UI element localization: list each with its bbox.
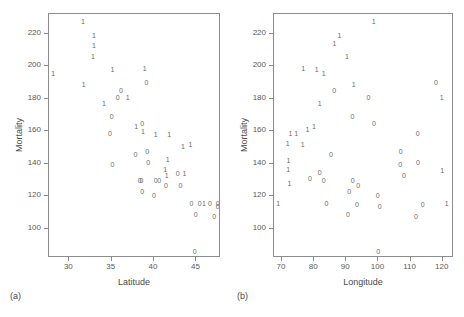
- y-axis-tick-label: 160: [253, 126, 266, 134]
- data-point-marker: 0: [193, 248, 197, 255]
- data-point-marker: 0: [402, 172, 406, 179]
- y-axis-tick: [269, 228, 273, 229]
- data-point-marker: 0: [378, 202, 382, 209]
- data-point-marker: 1: [286, 139, 290, 146]
- x-axis-tick-label: 70: [277, 263, 286, 271]
- data-point-marker: 0: [139, 176, 143, 183]
- data-point-marker: 0: [416, 159, 420, 166]
- data-point-marker: 1: [305, 126, 309, 133]
- panel-label-a: (a): [10, 291, 21, 301]
- data-point-marker: 1: [189, 141, 193, 148]
- y-axis-tick: [44, 130, 48, 131]
- data-point-marker: 0: [178, 181, 182, 188]
- y-axis-tick-label: 120: [253, 191, 266, 199]
- data-point-marker: 0: [372, 119, 376, 126]
- y-axis-tick: [269, 65, 273, 66]
- data-point-marker: 1: [318, 100, 322, 107]
- data-point-marker: 1: [288, 129, 292, 136]
- y-axis-tick: [44, 65, 48, 66]
- panel-label-b: (b): [237, 291, 248, 301]
- x-axis-tick: [153, 257, 154, 261]
- data-point-marker: 1: [294, 129, 298, 136]
- x-axis-tick: [345, 257, 346, 261]
- data-point-marker: 1: [165, 172, 169, 179]
- data-point-marker: 1: [183, 170, 187, 177]
- data-point-marker: 0: [194, 211, 198, 218]
- data-point-marker: 1: [315, 66, 319, 73]
- data-point-marker: 0: [111, 160, 115, 167]
- y-axis-tick-label: 100: [253, 224, 266, 232]
- figure-container: 1111111100011001101111001001011000000000…: [0, 0, 464, 317]
- x-axis-tick-label: 45: [191, 263, 200, 271]
- y-axis-tick-label: 200: [253, 61, 266, 69]
- data-point-marker: 1: [286, 165, 290, 172]
- data-point-marker: 0: [356, 181, 360, 188]
- data-point-marker: 0: [164, 181, 168, 188]
- data-point-marker: 0: [329, 150, 333, 157]
- x-axis-title-a: Latitude: [118, 277, 150, 287]
- data-point-marker: 0: [146, 159, 150, 166]
- data-point-marker: 0: [318, 168, 322, 175]
- data-point-marker: 0: [414, 212, 418, 219]
- data-point-marker: 0: [332, 87, 336, 94]
- x-axis-tick: [442, 257, 443, 261]
- x-axis-tick-label: 100: [371, 263, 384, 271]
- data-point-marker: 0: [116, 93, 120, 100]
- data-point-marker: 0: [133, 150, 137, 157]
- data-point-marker: 1: [345, 53, 349, 60]
- data-point-marker: 0: [140, 188, 144, 195]
- x-axis-tick: [410, 257, 411, 261]
- data-point-marker: 0: [324, 199, 328, 206]
- y-axis-tick-label: 220: [253, 29, 266, 37]
- data-point-marker: 0: [421, 201, 425, 208]
- data-point-marker: 0: [376, 191, 380, 198]
- y-axis-tick: [269, 98, 273, 99]
- data-point-marker: 0: [350, 113, 354, 120]
- plot-area-b: 1111111100011001111011001001100000100010…: [274, 14, 452, 256]
- data-point-marker: 1: [111, 66, 115, 73]
- y-axis-tick-label: 160: [28, 126, 41, 134]
- data-point-marker: 0: [398, 160, 402, 167]
- y-axis-tick: [269, 130, 273, 131]
- data-point-marker: 1: [332, 40, 336, 47]
- x-axis-tick: [68, 257, 69, 261]
- plot-frame-b: 1111111100011001111011001001100000100010…: [273, 13, 453, 257]
- data-point-marker: 1: [181, 142, 185, 149]
- data-point-marker: 1: [143, 64, 147, 71]
- data-point-marker: 1: [134, 123, 138, 130]
- data-point-marker: 1: [440, 93, 444, 100]
- y-axis-tick-label: 220: [28, 29, 41, 37]
- x-axis-tick: [281, 257, 282, 261]
- y-axis-tick: [269, 195, 273, 196]
- x-axis-tick-label: 90: [341, 263, 350, 271]
- data-point-marker: 0: [355, 201, 359, 208]
- x-axis-tick-label: 35: [106, 263, 115, 271]
- y-axis-title-a: Mortality: [14, 118, 24, 152]
- x-axis-tick-label: 80: [309, 263, 318, 271]
- data-point-marker: 0: [108, 129, 112, 136]
- data-point-marker: 1: [338, 32, 342, 39]
- x-axis-tick-label: 30: [64, 263, 73, 271]
- y-axis-tick-label: 100: [28, 224, 41, 232]
- data-point-marker: 1: [102, 100, 106, 107]
- x-axis-tick: [111, 257, 112, 261]
- x-axis-tick-label: 110: [403, 263, 416, 271]
- y-axis-tick: [44, 163, 48, 164]
- y-axis-tick: [44, 195, 48, 196]
- data-point-marker: 0: [140, 119, 144, 126]
- y-axis-tick-label: 140: [253, 159, 266, 167]
- x-axis-title-b: Longitude: [343, 277, 383, 287]
- data-point-marker: 0: [347, 188, 351, 195]
- x-axis-tick-label: 40: [149, 263, 158, 271]
- data-point-marker: 0: [208, 199, 212, 206]
- data-point-marker: 0: [216, 202, 219, 209]
- data-point-marker: 0: [110, 113, 114, 120]
- data-point-marker: 1: [301, 141, 305, 148]
- data-point-marker: 1: [352, 80, 356, 87]
- y-axis-tick: [269, 33, 273, 34]
- data-point-marker: 1: [126, 93, 130, 100]
- data-point-marker: 0: [189, 199, 193, 206]
- data-point-marker: 1: [82, 80, 86, 87]
- data-point-marker: 1: [51, 69, 55, 76]
- data-point-marker: 1: [92, 32, 96, 39]
